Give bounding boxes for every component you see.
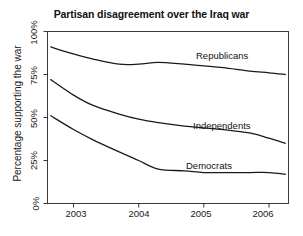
chart-container: Partisan disagreement over the Iraq war … bbox=[0, 0, 303, 236]
line-independents bbox=[51, 80, 285, 144]
tick-marks bbox=[44, 32, 269, 208]
plot-area bbox=[0, 0, 303, 236]
data-lines bbox=[51, 47, 285, 174]
line-republicans bbox=[51, 47, 285, 75]
